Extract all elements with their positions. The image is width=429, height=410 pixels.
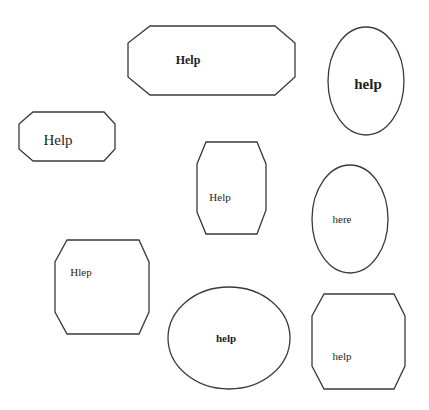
shape-a-wide-octagon [128,26,295,95]
shape-h-label: help [333,351,352,362]
shape-f-octagon [55,240,149,334]
shape-e-label: here [333,214,352,225]
shape-a-label: Help [176,54,201,66]
shape-b-label: help [354,77,382,92]
shape-c-label: Help [43,133,72,148]
shape-g-label: help [216,333,236,344]
shape-f-label: Hlep [70,267,91,278]
shape-h-octagon [312,294,405,389]
diagram-canvas: Help help Help Help here Hlep help help [0,0,429,410]
shape-d-tall-octagon [197,142,266,234]
diagram-shapes [0,0,429,410]
shape-d-label: Help [209,192,230,203]
